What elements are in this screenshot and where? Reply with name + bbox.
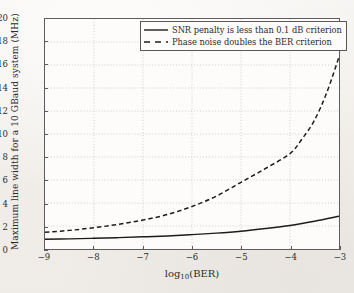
y-tick-label: 12 xyxy=(0,107,8,116)
figure-container: SNR penalty is less than 0.1 dB criterio… xyxy=(0,0,354,293)
x-tick-mark xyxy=(143,246,144,250)
y-tick-mark xyxy=(44,157,48,158)
x-tick-label: −5 xyxy=(228,253,254,262)
x-tick-label: −4 xyxy=(278,253,304,262)
y-tick-label: 20 xyxy=(0,14,8,23)
x-tick-mark xyxy=(192,246,193,250)
y-tick-label: 2 xyxy=(0,223,8,232)
y-tick-mark xyxy=(44,88,48,89)
y-tick-label: 0 xyxy=(0,246,8,255)
x-tick-label: −7 xyxy=(130,253,156,262)
x-tick-mark xyxy=(340,246,341,250)
y-tick-label: 14 xyxy=(0,83,8,92)
y-tick-mark xyxy=(44,134,48,135)
y-tick-mark xyxy=(44,204,48,205)
legend-label-phase-noise: Phase noise doubles the BER criterion xyxy=(172,37,332,47)
x-tick-label: −9 xyxy=(31,253,57,262)
legend-label-snr-penalty: SNR penalty is less than 0.1 dB criterio… xyxy=(172,25,342,35)
legend-line-sample-solid xyxy=(143,25,169,35)
legend-item-snr-penalty: SNR penalty is less than 0.1 dB criterio… xyxy=(143,24,342,36)
x-tick-label: −6 xyxy=(179,253,205,262)
x-tick-label: −3 xyxy=(327,253,353,262)
x-tick-label: −8 xyxy=(80,253,106,262)
y-tick-mark xyxy=(44,18,48,19)
x-axis-title-tail: (BER) xyxy=(189,268,219,279)
x-tick-mark xyxy=(44,246,45,250)
y-tick-mark xyxy=(44,111,48,112)
y-tick-mark xyxy=(44,250,48,251)
plot-area: SNR penalty is less than 0.1 dB criterio… xyxy=(44,18,340,250)
y-tick-mark xyxy=(44,64,48,65)
x-tick-mark xyxy=(93,246,94,250)
x-tick-mark xyxy=(291,246,292,250)
legend-item-phase-noise: Phase noise doubles the BER criterion xyxy=(143,36,342,48)
series-path-phase-noise xyxy=(45,57,339,232)
y-tick-label: 6 xyxy=(0,176,8,185)
y-tick-mark xyxy=(44,41,48,42)
data-curves xyxy=(45,19,339,249)
y-tick-label: 10 xyxy=(0,130,8,139)
y-tick-label: 8 xyxy=(0,153,8,162)
y-tick-label: 4 xyxy=(0,199,8,208)
x-axis-title-subscript: 10 xyxy=(180,273,189,281)
y-tick-label: 16 xyxy=(0,60,8,69)
y-tick-mark xyxy=(44,227,48,228)
legend-box: SNR penalty is less than 0.1 dB criterio… xyxy=(140,21,347,51)
x-axis-title: log10(BER) xyxy=(44,268,340,279)
x-axis-title-base: log xyxy=(165,268,181,279)
x-tick-mark xyxy=(241,246,242,250)
y-axis-title: Maximum line width for a 10 GBaud system… xyxy=(8,18,22,250)
y-tick-mark xyxy=(44,180,48,181)
legend-line-sample-dashed xyxy=(143,37,169,47)
y-tick-label: 18 xyxy=(0,37,8,46)
series-path-snr-penalty xyxy=(45,216,339,239)
